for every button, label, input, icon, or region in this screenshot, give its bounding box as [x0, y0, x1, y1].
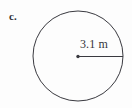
circle-diagram — [0, 0, 132, 108]
radius-measurement-label: 3.1 m — [80, 38, 108, 51]
center-point-dot — [76, 55, 79, 58]
geometry-figure: c. 3.1 m — [0, 0, 132, 108]
